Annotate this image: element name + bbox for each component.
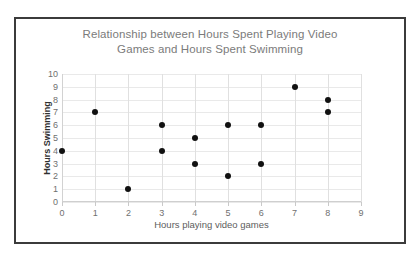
y-tick-label: 9 bbox=[53, 82, 58, 92]
data-point bbox=[258, 122, 264, 128]
gridline-horizontal bbox=[62, 112, 361, 113]
x-axis-line bbox=[62, 201, 361, 202]
y-tick-label: 3 bbox=[53, 159, 58, 169]
x-tick-mark bbox=[228, 202, 229, 206]
y-tick-label: 6 bbox=[53, 120, 58, 130]
gridline-horizontal bbox=[62, 176, 361, 177]
y-axis-title-label: Hours Swimming bbox=[42, 101, 52, 175]
gridline-horizontal bbox=[62, 164, 361, 165]
data-point bbox=[325, 109, 331, 115]
x-tick-mark bbox=[361, 202, 362, 206]
gridline-horizontal bbox=[62, 202, 361, 203]
gridline-vertical bbox=[361, 74, 362, 202]
data-point bbox=[125, 186, 131, 192]
gridline-horizontal bbox=[62, 138, 361, 139]
y-tick-label: 5 bbox=[53, 133, 58, 143]
data-point bbox=[192, 161, 198, 167]
x-tick-mark bbox=[261, 202, 262, 206]
x-tick-label: 2 bbox=[126, 208, 131, 218]
gridline-horizontal bbox=[62, 125, 361, 126]
data-point bbox=[159, 122, 165, 128]
x-tick-mark bbox=[295, 202, 296, 206]
gridline-vertical bbox=[295, 74, 296, 202]
x-tick-label: 0 bbox=[59, 208, 64, 218]
gridline-vertical bbox=[261, 74, 262, 202]
x-tick-label: 6 bbox=[259, 208, 264, 218]
gridline-horizontal bbox=[62, 87, 361, 88]
gridline-horizontal bbox=[62, 151, 361, 152]
gridline-vertical bbox=[162, 74, 163, 202]
data-point bbox=[159, 148, 165, 154]
x-tick-label: 7 bbox=[292, 208, 297, 218]
y-axis-line bbox=[62, 74, 63, 202]
gridline-vertical bbox=[228, 74, 229, 202]
gridline-vertical bbox=[328, 74, 329, 202]
chart-title: Relationship between Hours Spent Playing… bbox=[16, 27, 404, 57]
x-tick-mark bbox=[62, 202, 63, 206]
gridline-horizontal bbox=[62, 189, 361, 190]
x-tick-label: 1 bbox=[93, 208, 98, 218]
data-point bbox=[225, 122, 231, 128]
y-tick-label: 0 bbox=[53, 197, 58, 207]
y-tick-label: 7 bbox=[53, 107, 58, 117]
x-tick-mark bbox=[162, 202, 163, 206]
gridline-horizontal bbox=[62, 100, 361, 101]
y-axis-title: Hours Swimming bbox=[40, 74, 54, 202]
data-point bbox=[92, 109, 98, 115]
plot-area: 012345678910 0123456789 bbox=[62, 74, 361, 202]
y-tick-label: 4 bbox=[53, 146, 58, 156]
x-tick-label: 5 bbox=[226, 208, 231, 218]
x-tick-label: 4 bbox=[192, 208, 197, 218]
data-point bbox=[225, 173, 231, 179]
gridline-vertical bbox=[95, 74, 96, 202]
x-tick-label: 9 bbox=[358, 208, 363, 218]
y-tick-label: 10 bbox=[48, 69, 58, 79]
chart-frame: Relationship between Hours Spent Playing… bbox=[14, 17, 406, 244]
x-tick-mark bbox=[328, 202, 329, 206]
x-tick-mark bbox=[128, 202, 129, 206]
y-tick-label: 2 bbox=[53, 171, 58, 181]
x-tick-label: 8 bbox=[325, 208, 330, 218]
data-point bbox=[325, 97, 331, 103]
data-point bbox=[59, 148, 65, 154]
y-tick-label: 8 bbox=[53, 95, 58, 105]
x-tick-mark bbox=[195, 202, 196, 206]
y-tick-label: 1 bbox=[53, 184, 58, 194]
x-tick-label: 3 bbox=[159, 208, 164, 218]
x-tick-mark bbox=[95, 202, 96, 206]
x-axis-title: Hours playing video games bbox=[62, 219, 361, 230]
data-point bbox=[258, 161, 264, 167]
gridline-horizontal bbox=[62, 74, 361, 75]
data-point bbox=[192, 135, 198, 141]
data-point bbox=[292, 84, 298, 90]
gridline-vertical bbox=[128, 74, 129, 202]
